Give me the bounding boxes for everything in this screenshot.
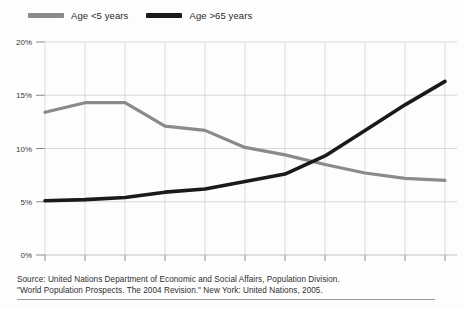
source-caption: Source: United Nations Department of Eco… xyxy=(17,274,447,296)
chart-legend: Age <5 years Age >65 years xyxy=(28,6,252,24)
legend-label: Age >65 years xyxy=(189,10,252,21)
caption-line-1: Source: United Nations Department of Eco… xyxy=(17,274,447,285)
legend-item-age-over-65: Age >65 years xyxy=(146,10,252,21)
y-axis-tick-label: 20% xyxy=(16,38,32,47)
y-axis-tick-label: 10% xyxy=(16,145,32,154)
chart-figure: Age <5 years Age >65 years 0%5%10%15%20%… xyxy=(0,0,465,309)
line-chart-svg: 0%5%10%15%20% 19501960197019801990200020… xyxy=(0,30,465,265)
caption-divider xyxy=(17,299,435,300)
legend-item-age-under-5: Age <5 years xyxy=(28,10,128,21)
plot-area: 0%5%10%15%20% 19501960197019801990200020… xyxy=(0,30,465,265)
vertical-gridlines xyxy=(45,42,457,261)
line-swatch-icon xyxy=(146,13,182,18)
y-axis-tick-label: 0% xyxy=(20,251,32,260)
caption-line-2: "World Population Prospects. The 2004 Re… xyxy=(17,285,447,296)
y-axis-tick-label: 5% xyxy=(20,198,32,207)
line-swatch-icon xyxy=(28,13,64,18)
y-axis-tick-labels: 0%5%10%15%20% xyxy=(16,38,32,260)
legend-label: Age <5 years xyxy=(71,10,128,21)
y-axis-tick-label: 15% xyxy=(16,91,32,100)
